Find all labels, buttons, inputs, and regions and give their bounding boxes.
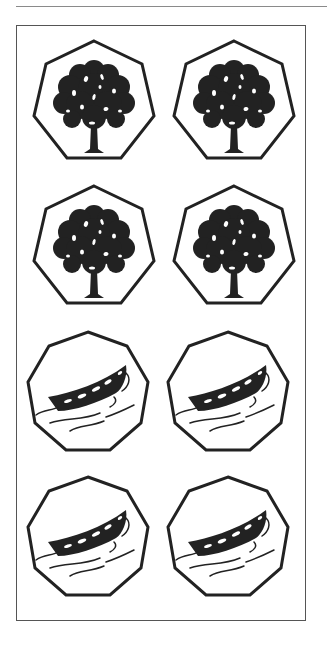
boat-nonagon-tile xyxy=(162,327,294,459)
tree-icon xyxy=(28,182,160,314)
tile-sheet xyxy=(16,25,306,621)
boat-icon xyxy=(22,472,154,604)
boat-nonagon-tile xyxy=(162,472,294,604)
tree-heptagon-tile xyxy=(168,37,300,169)
tree-heptagon-tile xyxy=(28,182,160,314)
boat-icon xyxy=(22,327,154,459)
boat-icon xyxy=(162,472,294,604)
boat-icon xyxy=(162,327,294,459)
boat-nonagon-tile xyxy=(22,472,154,604)
tree-icon xyxy=(28,37,160,169)
tree-icon xyxy=(168,182,300,314)
boat-nonagon-tile xyxy=(22,327,154,459)
top-rule-line xyxy=(16,6,327,7)
tree-heptagon-tile xyxy=(28,37,160,169)
tree-icon xyxy=(168,37,300,169)
tree-heptagon-tile xyxy=(168,182,300,314)
